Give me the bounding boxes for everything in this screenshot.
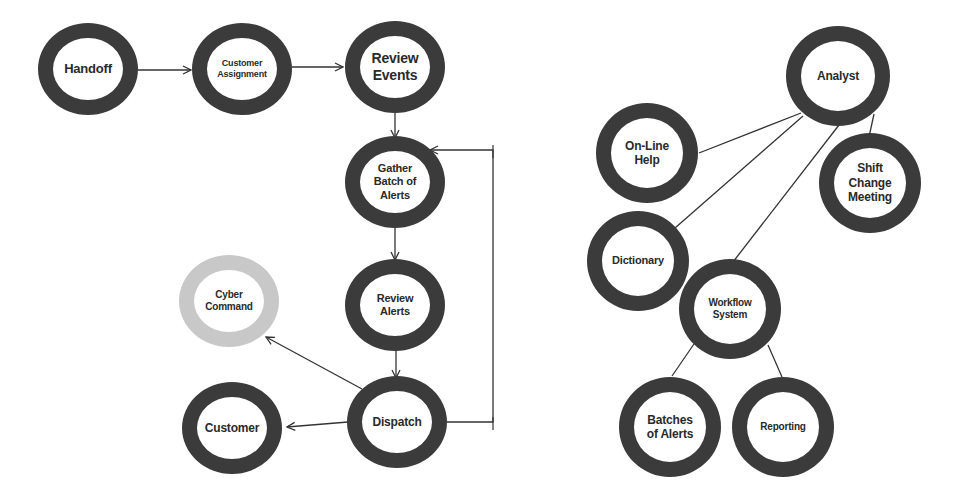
node-customer: Customer: [182, 382, 282, 474]
node-label: Dictionary: [612, 254, 664, 267]
node-batches-of-alerts: Batches of Alerts: [619, 377, 721, 477]
node-label: Review Events: [371, 50, 418, 84]
node-label: Cyber Command: [205, 289, 253, 313]
edge-workflow-system-to-batches-of-alerts: [672, 344, 694, 376]
node-label: Workflow System: [708, 297, 751, 321]
node-label: Gather Batch of Alerts: [374, 162, 416, 202]
node-label: Customer Assignment: [217, 58, 267, 80]
node-on-line-help: On-Line Help: [596, 103, 698, 203]
node-label: On-Line Help: [625, 139, 669, 168]
node-label: Customer: [205, 421, 259, 435]
edge-analyst-to-on-line-help: [699, 113, 801, 153]
node-handoff: Handoff: [38, 23, 138, 115]
node-customer-assignment: Customer Assignment: [192, 23, 292, 115]
node-label: Handoff: [64, 61, 112, 77]
edge-dispatch-to-cyber-command: [266, 337, 362, 389]
node-dispatch: Dispatch: [347, 376, 447, 468]
node-review-events: Review Events: [345, 21, 445, 113]
edge-workflow-system-to-reporting: [768, 345, 782, 377]
node-label: Batches of Alerts: [647, 413, 693, 442]
node-label: Reporting: [760, 421, 805, 433]
edge-dispatch-to-customer: [287, 422, 348, 427]
node-label: Shift Change Meeting: [848, 161, 892, 204]
node-shift-change-meeting: Shift Change Meeting: [819, 133, 921, 233]
node-reporting: Reporting: [732, 377, 834, 477]
node-dictionary: Dictionary: [587, 211, 689, 311]
edge-analyst-to-dictionary: [675, 116, 803, 228]
node-cyber-command: Cyber Command: [179, 255, 279, 347]
node-analyst: Analyst: [786, 26, 890, 126]
node-review-alerts: Review Alerts: [345, 259, 445, 351]
node-label: Analyst: [817, 69, 859, 83]
node-workflow-system: Workflow System: [679, 259, 781, 359]
node-label: Dispatch: [372, 415, 421, 429]
node-label: Review Alerts: [377, 292, 414, 318]
node-gather-batch: Gather Batch of Alerts: [345, 136, 445, 228]
diagram-canvas: HandoffCustomer AssignmentReview EventsG…: [0, 0, 968, 496]
